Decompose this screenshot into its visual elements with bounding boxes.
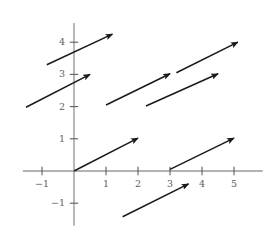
- arrow-4: [176, 42, 237, 73]
- y-tick-label: 4: [59, 37, 65, 47]
- y-tick-label: 3: [59, 70, 65, 80]
- y-tick-label: 2: [59, 102, 65, 112]
- x-tick-label: 3: [167, 179, 173, 189]
- y-tick-label: −1: [51, 198, 65, 208]
- vector-field-figure: −112345−11234: [0, 0, 276, 229]
- x-tick-label: −1: [35, 179, 49, 189]
- x-tick-label: 5: [231, 179, 237, 189]
- x-tick-label: 1: [103, 179, 109, 189]
- arrow-1: [47, 34, 113, 65]
- arrow-7: [170, 138, 234, 169]
- plot-canvas: [0, 0, 276, 229]
- axes: [23, 23, 263, 226]
- arrow-6: [74, 138, 138, 171]
- arrow-5: [146, 74, 218, 106]
- x-tick-label: 2: [135, 179, 141, 189]
- y-tick-label: 1: [59, 134, 65, 144]
- vector-arrows: [26, 34, 238, 217]
- arrow-8: [123, 184, 189, 217]
- x-tick-label: 4: [199, 179, 205, 189]
